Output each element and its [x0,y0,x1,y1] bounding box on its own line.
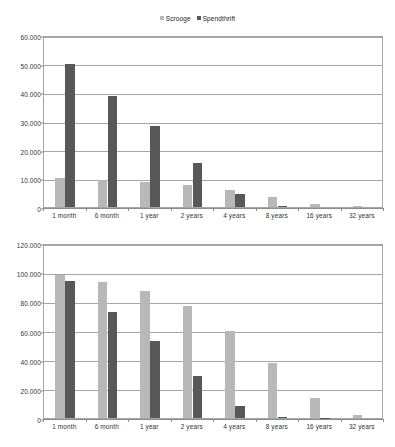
chart-page: ScroogeSpendthrift 010.00020.00030.00040… [0,0,395,447]
bar-group [257,245,300,418]
bar-spendthrift-4-years [235,194,245,207]
bar-group [129,37,172,207]
bar-spendthrift-1-month [65,281,75,418]
plot-area-top: 010.00020.00030.00040.00050.00060.000 [43,36,383,208]
bar-scrooge-32-years [353,206,363,207]
legend-label: Scrooge [166,15,191,22]
y-axis-tick-label: 20.000 [21,148,41,155]
bar-spendthrift-1-year [150,341,160,418]
x-axis-label: 1 month [52,423,76,430]
x-axis-tick-mark [86,419,87,422]
x-axis-label: 4 years [223,212,245,219]
x-axis-label: 1 year [140,212,159,219]
bar-group [299,37,342,207]
bar-group [87,245,130,418]
x-axis-tick-mark [341,419,342,422]
bar-scrooge-1-year [140,291,150,418]
bar-scrooge-16-years [310,204,320,207]
x-axis-top [43,208,383,209]
bar-scrooge-4-years [225,331,235,419]
x-axis-tick-mark [298,419,299,422]
plot-area-bottom: 020.00040.00060.00080.000100.000120.000 [43,244,383,419]
x-axis-tick-mark [43,208,44,211]
x-axis-label: 4 years [223,423,245,430]
x-axis-tick-mark [341,208,342,211]
x-axis-tick-mark [43,419,44,422]
x-axis-tick-mark [213,419,214,422]
bar-group [214,245,257,418]
plot-wrapper-bottom: 020.00040.00060.00080.000100.000120.000 … [0,236,395,441]
x-axis-labels-bottom: 1 month6 month1 year2 years4 years8 year… [43,423,383,435]
y-axis-tick-label: 60.000 [21,329,41,336]
x-axis-tick-mark [213,208,214,211]
y-axis-tick-label: 40.000 [21,91,41,98]
x-axis-tick-mark [86,208,87,211]
bar-group [172,245,215,418]
x-axis-label: 32 years [349,212,375,219]
bar-group [342,37,385,207]
bar-spendthrift-8-years [278,206,288,207]
bar-spendthrift-6-month [108,96,118,207]
bar-scrooge-8-years [268,197,278,207]
x-axis-label: 16 years [306,212,332,219]
x-axis-tick-mark [256,419,257,422]
bar-scrooge-1-month [55,178,65,207]
x-axis-bottom [43,419,383,420]
x-axis-label: 6 month [95,212,119,219]
bar-group [342,245,385,418]
y-axis-tick-label: 60.000 [21,34,41,41]
bar-group [44,245,87,418]
bar-scrooge-6-month [98,282,108,418]
bar-group [214,37,257,207]
bar-scrooge-6-month [98,180,108,207]
x-axis-tick-mark [128,419,129,422]
legend-square-marker [160,16,164,20]
bar-scrooge-1-month [55,275,65,418]
y-axis-tick-label: 10.000 [21,177,41,184]
x-axis-label: 1 year [140,423,159,430]
bar-spendthrift-2-years [193,163,203,207]
y-axis-tick-label: 80.000 [21,300,41,307]
bar-scrooge-32-years [353,415,363,418]
x-axis-tick-mark [171,208,172,211]
y-axis-tick-label: 30.000 [21,120,41,127]
bar-chart-top: 010.00020.00030.00040.00050.00060.000 1 … [0,28,395,224]
y-axis-tick-label: 120.000 [17,242,41,249]
y-axis-tick-label: 0 [37,206,41,213]
plot-wrapper-top: 010.00020.00030.00040.00050.00060.000 1 … [0,28,395,224]
bar-group [257,37,300,207]
x-axis-tick-mark [128,208,129,211]
y-axis-tick-label: 100.000 [17,271,41,278]
bar-scrooge-16-years [310,398,320,418]
bar-scrooge-1-year [140,182,150,207]
bar-group [299,245,342,418]
bar-group [129,245,172,418]
x-axis-label: 16 years [306,423,332,430]
bars-layer-top [44,37,382,207]
x-axis-labels-top: 1 month6 month1 year2 years4 years8 year… [43,212,383,224]
x-axis-tick-mark [383,419,384,422]
bar-spendthrift-1-month [65,64,75,207]
bar-spendthrift-2-years [193,376,203,418]
bar-scrooge-4-years [225,190,235,207]
y-axis-tick-label: 0 [37,417,41,424]
bar-group [87,37,130,207]
x-axis-tick-mark [298,208,299,211]
bar-group [44,37,87,207]
legend-label: Spendthrift [203,15,236,22]
x-axis-tick-mark [256,208,257,211]
x-axis-tick-mark [383,208,384,211]
x-axis-label: 2 years [181,423,203,430]
y-axis-tick-label: 20.000 [21,387,41,394]
bar-scrooge-2-years [183,306,193,418]
y-axis-tick-label: 40.000 [21,358,41,365]
x-axis-tick-mark [171,419,172,422]
bar-spendthrift-4-years [235,406,245,418]
x-axis-label: 8 years [266,212,288,219]
bar-scrooge-8-years [268,363,278,418]
chart-legend: ScroogeSpendthrift [0,14,395,22]
y-axis-tick-label: 50.000 [21,62,41,69]
bar-chart-bottom: 020.00040.00060.00080.000100.000120.000 … [0,236,395,441]
bars-layer-bottom [44,245,382,418]
bar-spendthrift-1-year [150,126,160,207]
